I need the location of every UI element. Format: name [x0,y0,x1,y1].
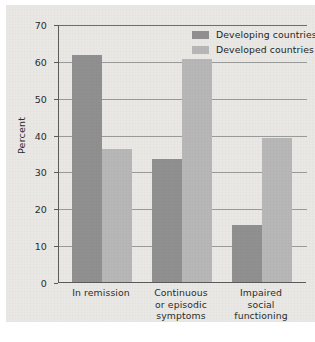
page-margin-bottom [0,322,315,342]
bar-developed-2 [262,138,292,282]
y-tick-10 [54,246,58,247]
bar-developing-0 [72,55,102,282]
chart-legend: Developing countries Developed countries [192,29,315,55]
chart-page: Percent Developing countries Developed c… [0,0,315,342]
y-tick-label-50: 50 [35,93,47,104]
legend-label-developing: Developing countries [216,29,315,40]
bar-developed-0 [102,149,132,282]
chart-canvas: Percent Developing countries Developed c… [6,5,315,322]
y-tick-label-30: 30 [35,167,47,178]
plot-area [58,25,306,283]
y-axis-title: Percent [16,117,27,154]
y-tick-label-0: 0 [41,278,47,289]
category-label-line: Impaired [213,287,309,299]
bar-developing-2 [232,225,262,282]
y-tick-label-70: 70 [35,20,47,31]
category-label-line: functioning [213,310,309,322]
x-axis-label-2: Impairedsocialfunctioning [213,287,309,322]
legend-swatch-developed [192,46,209,54]
legend-item-developing: Developing countries [192,29,315,40]
legend-swatch-developing [192,31,209,39]
page-margin-top [0,0,315,5]
y-tick-20 [54,209,58,210]
legend-label-developed: Developed countries [216,44,314,55]
bar-developing-1 [152,159,182,282]
page-margin-left [0,0,6,342]
y-tick-40 [54,136,58,137]
y-tick-60 [54,62,58,63]
y-tick-30 [54,172,58,173]
gridline-70 [59,25,307,26]
category-label-line: social [213,299,309,311]
legend-item-developed: Developed countries [192,44,315,55]
y-tick-label-60: 60 [35,56,47,67]
bar-developed-1 [182,59,212,282]
y-tick-label-10: 10 [35,241,47,252]
y-tick-label-20: 20 [35,204,47,215]
y-tick-50 [54,99,58,100]
y-tick-0 [54,283,58,284]
y-tick-label-40: 40 [35,130,47,141]
y-tick-70 [54,25,58,26]
